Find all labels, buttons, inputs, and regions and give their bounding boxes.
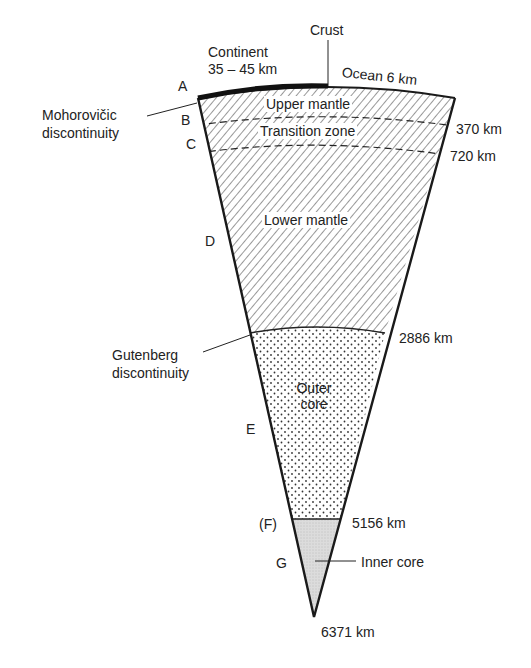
depth-370km-label: 370 km xyxy=(456,121,502,137)
outer-core-label-line2: core xyxy=(292,396,336,412)
mohorovicic-label-line2: discontinuity xyxy=(42,125,119,141)
letter-b: B xyxy=(181,112,190,128)
letter-e: E xyxy=(246,421,255,437)
lower-mantle-label: Lower mantle xyxy=(262,212,350,228)
gutenberg-label-line2: discontinuity xyxy=(112,365,189,381)
outer-core-label-line1: Outer xyxy=(292,380,336,396)
continent-label: Continent xyxy=(208,44,268,60)
crust-label: Crust xyxy=(310,22,343,38)
gutenberg-leader-line xyxy=(203,335,250,352)
transition-zone-label: Transition zone xyxy=(258,123,357,139)
depth-6371km-label: 6371 km xyxy=(321,624,375,640)
letter-d: D xyxy=(205,233,215,249)
letter-c: C xyxy=(186,136,196,152)
depth-2886km-label: 2886 km xyxy=(399,330,453,346)
mohorovicic-label-line1: Mohorovičic xyxy=(42,107,117,123)
inner-core-region xyxy=(292,519,340,617)
outer-core-label: Outer core xyxy=(290,380,338,412)
continent-thickness-label: 35 – 45 km xyxy=(208,61,277,77)
inner-core-label: Inner core xyxy=(361,554,424,570)
depth-5156km-label: 5156 km xyxy=(352,515,406,531)
letter-f: (F) xyxy=(259,516,277,532)
gutenberg-label-line1: Gutenberg xyxy=(112,347,178,363)
depth-720km-label: 720 km xyxy=(450,148,496,164)
upper-mantle-label: Upper mantle xyxy=(264,96,352,112)
letter-a: A xyxy=(178,78,187,94)
letter-g: G xyxy=(276,555,287,571)
